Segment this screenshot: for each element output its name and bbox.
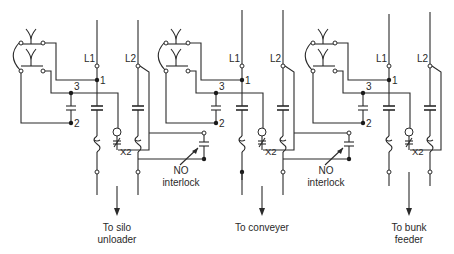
line-label-l1: L1 [376,53,388,64]
start-button-icon [26,49,36,60]
stop-button-icon [26,29,36,40]
interlock-label: NO [319,165,334,176]
line-label-l2: L2 [125,53,137,64]
overload-heater-icon [239,136,245,152]
overload-heater-icon [386,136,392,152]
starter-section-silo-unloader: 3 2 L1 1 L2 X2 [13,20,149,245]
node-label-1: 1 [100,75,106,86]
node-label-2: 2 [219,118,225,129]
line-label-l1: L1 [84,53,96,64]
interlock-label: interlock [162,177,200,188]
node-label-1: 1 [392,75,398,86]
node-label-1: 1 [245,75,251,86]
interlock-label: NO [174,165,189,176]
node-label-3: 3 [74,81,80,92]
destination-label: feeder [395,234,424,245]
arrow-down-icon [406,208,412,216]
arrow-down-icon [259,208,265,216]
node-label-3: 3 [366,81,372,92]
arrow-down-icon [114,208,120,216]
start-button-icon [171,49,181,60]
destination-label: To bunk [391,222,427,233]
line-label-l2: L2 [417,53,429,64]
overload-heater-icon [94,136,100,152]
coil-icon [405,128,413,136]
aux-label-x2: X2 [265,146,277,157]
node-label-2: 2 [366,118,372,129]
destination-label: unloader [98,234,138,245]
pushbutton-station [13,29,45,73]
line-label-l2: L2 [270,53,282,64]
node-label-2: 2 [74,118,80,129]
interlock-label: interlock [307,177,345,188]
node-label-3: 3 [219,81,225,92]
stop-button-icon [171,29,181,40]
wiring-diagram: 3 2 L1 1 L2 X2 [0,0,454,254]
destination-label: To conveyer [235,222,290,233]
destination-label: To silo [103,222,132,233]
line-label-l1: L1 [229,53,241,64]
stop-button-icon [318,29,328,40]
starter-section-bunk-feeder: 3 2 L1 1 L2 X2 To bun [305,12,441,245]
starter-section-conveyer: 3 2 L1 1 L2 X2 To con [158,10,294,233]
start-button-icon [318,49,328,60]
coil-icon [258,128,266,136]
aux-label-x2: X2 [120,146,132,157]
aux-label-x2: X2 [412,146,424,157]
coil-icon [113,128,121,136]
